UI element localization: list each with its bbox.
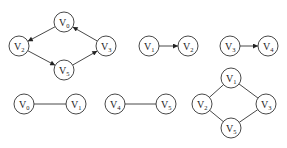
vertex-g1-v3: V3: [96, 36, 116, 56]
directed-edge-g1-3: [73, 27, 98, 41]
vertex-g6-v5: V5: [221, 118, 241, 138]
vertex-g1-v0: V0: [54, 12, 74, 32]
vertex-g5-v5: V5: [156, 94, 176, 114]
vertex-g4-v1: V1: [66, 94, 86, 114]
directed-edge-g1-1: [28, 51, 55, 66]
vertex-g1-v2: V2: [9, 36, 29, 56]
edge-g6-3: [239, 110, 258, 123]
graph-diagram: V0V2V3V5V1V2V3V4V0V1V4V5V1V2V3V5: [0, 0, 287, 148]
vertex-g1-v5: V5: [54, 60, 74, 80]
directed-edge-g1-0: [28, 27, 55, 42]
vertex-g2-v1: V1: [139, 36, 159, 56]
vertex-g6-v2: V2: [192, 94, 212, 114]
edge-g6-2: [210, 110, 224, 121]
directed-edge-g1-2: [73, 51, 98, 65]
edge-g6-0: [209, 85, 223, 98]
vertex-g4-v0: V0: [14, 94, 34, 114]
vertex-g3-v4: V4: [258, 36, 278, 56]
nodes-layer: V0V2V3V5V1V2V3V4V0V1V4V5V1V2V3V5: [9, 12, 278, 138]
vertex-g3-v3: V3: [220, 36, 240, 56]
edge-g6-1: [239, 84, 258, 98]
vertex-g2-v2: V2: [178, 36, 198, 56]
vertex-g5-v4: V4: [105, 94, 125, 114]
vertex-g6-v1: V1: [221, 68, 241, 88]
vertex-g6-v3: V3: [256, 94, 276, 114]
